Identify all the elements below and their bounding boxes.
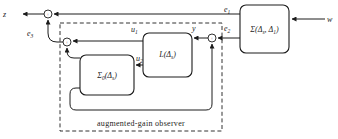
u1-signal-label: u1 <box>131 25 138 35</box>
e1-signal-label: e1 <box>224 5 231 15</box>
model-to-sum2-wire <box>67 48 80 58</box>
sum-junction-e3-sign: + <box>66 40 69 45</box>
u2-signal-label: u2 <box>136 54 143 64</box>
w-signal-label: w <box>327 15 333 24</box>
e3-signal-label: e3 <box>27 29 34 39</box>
z-signal-label: z <box>2 10 7 19</box>
sum-junction-y-sign: + <box>211 36 214 41</box>
block-diagram-canvas: + + + Σ(Δs, Δ1) L(Δs) Σ0(Δs) z w y e1 e2… <box>0 0 338 139</box>
y-signal-label: y <box>191 24 196 33</box>
observer-caption: augmented-gain observer <box>97 119 185 128</box>
model-block-label: Σ0(Δs) <box>96 71 117 81</box>
block-diagram-figure: + + + Σ(Δs, Δ1) L(Δs) Σ0(Δs) z w y e1 e2… <box>0 0 338 139</box>
sum-junction-z-sign: + <box>47 12 50 17</box>
e2-signal-label: e2 <box>224 24 231 34</box>
gain-block-label: L(Δs) <box>158 50 176 60</box>
